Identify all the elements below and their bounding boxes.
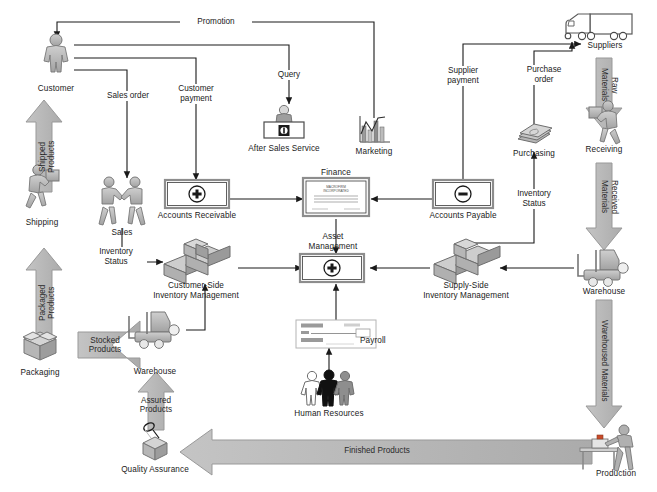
node-label-asset-management: Asset Management xyxy=(297,232,369,251)
node-label-after-sales-service: After Sales Service xyxy=(231,144,337,154)
band-label-raw-materials: Raw Materials xyxy=(600,60,619,110)
node-label-human-resources: Human Resources xyxy=(279,409,379,419)
band-label-warehoused-materials: Warehoused Materials xyxy=(600,318,609,404)
node-label-sales: Sales xyxy=(82,228,162,238)
edge-customer-payment xyxy=(74,58,196,180)
node-label-customer: Customer xyxy=(16,84,96,94)
node-label-payroll: Payroll xyxy=(360,336,408,346)
node-label-packaging: Packaging xyxy=(0,368,80,378)
flow-label-sales-order: Sales order xyxy=(93,91,163,101)
band-label-received-materials: Received Materials xyxy=(600,165,619,229)
stacked-boxes-icon xyxy=(164,239,230,284)
band-label-shipped-products: Shipped Products xyxy=(38,126,57,188)
stacked-boxes-icon-supply xyxy=(434,239,500,284)
band-label-stocked-products: Stocked Products xyxy=(76,336,134,355)
bar-chart-icon xyxy=(360,116,390,142)
node-label-finance: Finance xyxy=(296,168,376,178)
banknotes-icon xyxy=(518,124,552,143)
three-people-icon xyxy=(301,370,354,406)
node-label-shipping: Shipping xyxy=(2,218,82,228)
flow-label-inventory-status-right: Inventory Status xyxy=(503,189,565,209)
plus-ledger-icon-asset xyxy=(300,254,364,282)
band-label-finished-products: Finished Products xyxy=(330,446,424,455)
node-label-accounts-payable: Accounts Payable xyxy=(411,211,515,221)
handshake-people-icon xyxy=(99,177,145,225)
node-label-supply-side-inventory: Supply-Side Inventory Management xyxy=(401,281,531,300)
flow-label-supplier-payment: Supplier payment xyxy=(430,66,496,86)
svg-text:INCORPORATED: INCORPORATED xyxy=(323,189,349,193)
plus-ledger-icon xyxy=(165,180,229,208)
node-label-purchasing: Purchasing xyxy=(494,149,574,159)
erp-flow-diagram: MACROFIRM INCORPORATED xyxy=(0,0,657,492)
node-label-warehouse-right: Warehouse xyxy=(566,287,642,297)
node-label-customer-side-inventory: Customer-Side Inventory Management xyxy=(131,281,261,300)
forklift-icon-right xyxy=(578,250,628,286)
flow-label-query: Query xyxy=(264,70,314,80)
service-desk-icon xyxy=(264,105,304,138)
certificate-icon: MACROFIRM INCORPORATED xyxy=(303,178,369,216)
person-icon xyxy=(44,34,68,72)
node-label-quality-assurance: Quality Assurance xyxy=(105,465,205,475)
flow-label-inventory-status-left: Inventory Status xyxy=(85,247,147,267)
band-label-packaged-products: Packaged Products xyxy=(38,268,57,338)
truck-icon xyxy=(565,14,632,40)
flow-label-customer-payment: Customer payment xyxy=(164,84,228,104)
flow-label-purchase-order: Purchase order xyxy=(513,65,575,85)
node-label-production: Production xyxy=(578,469,654,479)
node-label-accounts-receivable: Accounts Receivable xyxy=(142,211,252,221)
flow-label-promotion: Promotion xyxy=(180,17,252,27)
minus-ledger-icon xyxy=(433,180,493,208)
node-label-receiving: Receiving xyxy=(568,145,640,155)
band-label-assured-products: Assured Products xyxy=(126,396,186,415)
node-label-marketing: Marketing xyxy=(334,147,414,157)
node-label-warehouse-left: Warehouse xyxy=(115,367,195,377)
node-label-suppliers: Suppliers xyxy=(570,41,640,51)
